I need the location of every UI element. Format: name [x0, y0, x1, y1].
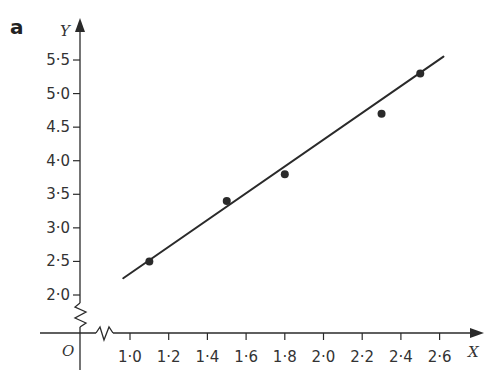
y-axis-break: [75, 303, 86, 327]
data-point: [223, 197, 231, 205]
regression-line: [123, 57, 443, 279]
origin-label: O: [62, 342, 74, 360]
y-tick-label: 3·5: [46, 185, 70, 203]
y-tick-label: 5·0: [46, 85, 70, 103]
data-point: [145, 257, 153, 265]
x-tick-label: 1·4: [195, 348, 219, 366]
x-tick-label: 2·0: [312, 348, 336, 366]
x-ticks: 1·01·21·41·61·82·02·22·42·6: [118, 333, 451, 366]
x-tick-label: 1·6: [234, 348, 258, 366]
x-tick-label: 1·0: [118, 348, 142, 366]
y-tick-label: 4·0: [46, 152, 70, 170]
axes: [40, 24, 474, 370]
y-tick-label: 3·0: [46, 219, 70, 237]
x-axis-label: X: [467, 343, 480, 361]
y-tick-label: 4.5: [46, 118, 70, 136]
x-tick-label: 2·4: [389, 348, 413, 366]
x-axis-break: [96, 327, 113, 340]
x-tick-label: 1·2: [157, 348, 181, 366]
x-tick-label: 2·6: [428, 348, 452, 366]
y-axis-arrow-icon: [75, 18, 85, 32]
y-tick-label: 2·0: [46, 286, 70, 304]
data-point: [416, 69, 424, 77]
y-tick-label: 2·5: [46, 252, 70, 270]
x-tick-label: 1·8: [273, 348, 297, 366]
panel-label: a: [10, 15, 24, 39]
scatter-chart: a Y X O 2·02·53·03·54·04.55·05·5 1·01·21…: [0, 0, 495, 388]
y-ticks: 2·02·53·03·54·04.55·05·5: [46, 51, 80, 304]
x-axis-arrow-icon: [470, 328, 484, 338]
x-tick-label: 2·2: [350, 348, 374, 366]
data-point: [378, 110, 386, 118]
y-axis-label: Y: [60, 22, 72, 40]
fit-line: [123, 57, 443, 279]
data-point: [281, 170, 289, 178]
y-tick-label: 5·5: [46, 51, 70, 69]
